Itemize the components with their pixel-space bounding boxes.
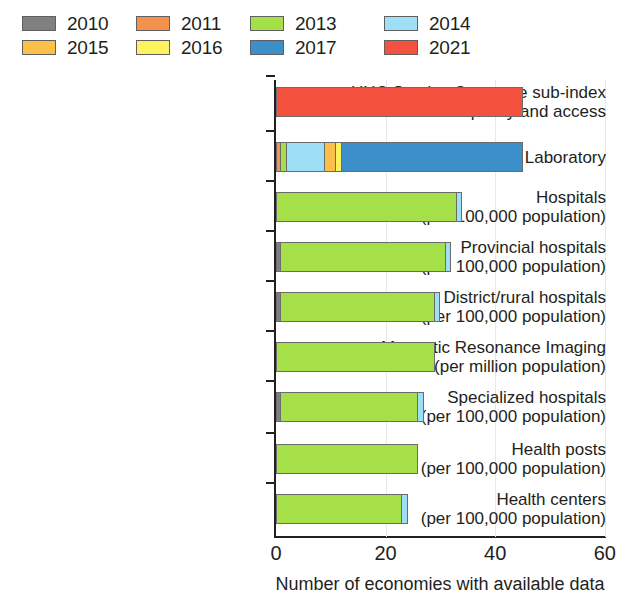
bar-segment-2014 bbox=[402, 494, 407, 524]
legend-swatch-2014 bbox=[384, 16, 418, 31]
x-tick-label-40: 40 bbox=[465, 542, 525, 564]
x-tick-label-20: 20 bbox=[356, 542, 416, 564]
bar-segment-2013 bbox=[281, 392, 418, 422]
bar-row-1 bbox=[276, 142, 523, 172]
bar-segment-2013 bbox=[276, 444, 418, 474]
bar-segment-2014 bbox=[446, 242, 451, 272]
bar-row-3 bbox=[276, 242, 451, 272]
legend-swatch-2011 bbox=[136, 16, 170, 31]
legend-item-2017: 2017 bbox=[250, 38, 336, 57]
legend-label-2017: 2017 bbox=[295, 38, 336, 57]
bar-segment-2014 bbox=[457, 192, 462, 222]
bar-row-5 bbox=[276, 342, 435, 372]
chart-legend: 20102011201320142015201620172021 bbox=[0, 0, 614, 62]
legend-swatch-2013 bbox=[250, 16, 284, 31]
x-axis-title: Number of economies with available data bbox=[274, 574, 606, 594]
bar-segment-2021 bbox=[276, 87, 523, 117]
y-tick-3 bbox=[266, 230, 275, 232]
legend-label-2016: 2016 bbox=[181, 38, 222, 57]
bar-segment-2014 bbox=[418, 392, 423, 422]
bar-segment-2013 bbox=[276, 342, 435, 372]
bar-segment-2014 bbox=[287, 142, 325, 172]
bar-segment-2017 bbox=[342, 142, 523, 172]
legend-swatch-2015 bbox=[22, 40, 56, 55]
legend-label-2014: 2014 bbox=[429, 14, 470, 33]
bar-segment-2013 bbox=[276, 494, 402, 524]
legend-swatch-2016 bbox=[136, 40, 170, 55]
y-tick-2 bbox=[266, 180, 275, 182]
legend-item-2021: 2021 bbox=[384, 38, 470, 57]
y-tick-0 bbox=[266, 75, 275, 77]
y-tick-7 bbox=[266, 432, 275, 434]
legend-item-2015: 2015 bbox=[22, 38, 108, 57]
legend-swatch-2010 bbox=[22, 16, 56, 31]
x-tick-label-60: 60 bbox=[575, 542, 620, 564]
bar-row-0 bbox=[276, 87, 523, 117]
legend-swatch-2021 bbox=[384, 40, 418, 55]
bar-row-7 bbox=[276, 444, 418, 474]
bar-row-8 bbox=[276, 494, 408, 524]
legend-label-2013: 2013 bbox=[295, 14, 336, 33]
legend-item-2014: 2014 bbox=[384, 14, 470, 33]
bar-row-2 bbox=[276, 192, 462, 222]
bar-row-6 bbox=[276, 392, 424, 422]
bar-segment-2013 bbox=[276, 192, 457, 222]
legend-label-2010: 2010 bbox=[67, 14, 108, 33]
x-axis-line bbox=[274, 536, 606, 538]
bar-segment-2013 bbox=[281, 292, 434, 322]
x-tick-label-0: 0 bbox=[246, 542, 306, 564]
legend-label-2011: 2011 bbox=[181, 14, 221, 33]
bar-segment-2014 bbox=[435, 292, 440, 322]
legend-label-2015: 2015 bbox=[67, 38, 108, 57]
y-tick-4 bbox=[266, 280, 275, 282]
bar-segment-2015 bbox=[325, 142, 336, 172]
y-tick-8 bbox=[266, 482, 275, 484]
legend-swatch-2017 bbox=[250, 40, 284, 55]
legend-item-2016: 2016 bbox=[136, 38, 222, 57]
bar-segment-2013 bbox=[281, 242, 445, 272]
legend-item-2010: 2010 bbox=[22, 14, 108, 33]
y-tick-5 bbox=[266, 330, 275, 332]
legend-item-2013: 2013 bbox=[250, 14, 336, 33]
y-tick-1 bbox=[266, 130, 275, 132]
chart-plot-area: 0204060 UHC Service Coverage sub-indexon… bbox=[0, 62, 614, 589]
bar-row-4 bbox=[276, 292, 440, 322]
legend-label-2021: 2021 bbox=[429, 38, 470, 57]
y-tick-6 bbox=[266, 380, 275, 382]
legend-item-2011: 2011 bbox=[136, 14, 221, 33]
